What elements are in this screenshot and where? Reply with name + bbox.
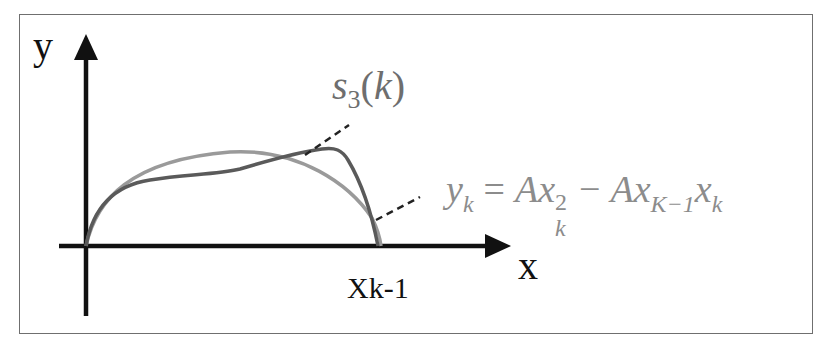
eq-term2-sub2: k	[712, 191, 723, 217]
y-axis-label: y	[33, 26, 53, 66]
parabola-equation-label: yk=Ax2k−AxK−1xk	[446, 170, 722, 208]
x-tick-label: Xk-1	[347, 273, 409, 303]
eq-lhs: y	[446, 168, 463, 210]
eq-term1-sub: k	[555, 216, 566, 240]
x-axis	[59, 234, 511, 258]
s3-symbol: s	[332, 63, 348, 108]
eq-lhs-sub: k	[463, 191, 474, 217]
eq-minus: −	[569, 168, 610, 210]
s3-subscript: 3	[348, 85, 361, 114]
s3-argument: k	[374, 63, 392, 108]
eq-term2-var1: x	[634, 168, 651, 210]
s3-curve-label: s3(k)	[332, 66, 405, 106]
eq-term2-var2: x	[695, 168, 712, 210]
eq-term2-sub1: K−1	[651, 191, 695, 217]
s3-close-paren: )	[392, 63, 405, 108]
x-axis-label: x	[518, 246, 538, 286]
eq-term1-sup: 2	[555, 190, 567, 214]
eq-equals: =	[474, 168, 515, 210]
eq-term2-coef: A	[611, 168, 634, 210]
s3-curve	[86, 148, 378, 246]
s3-open-paren: (	[361, 63, 374, 108]
diagram-canvas: y x Xk-1 s3(k) yk=Ax2k−AxK−1xk	[0, 0, 827, 343]
y-axis	[74, 34, 98, 316]
eq-term1-coef: A	[515, 168, 538, 210]
eq-term1-var: x	[538, 168, 555, 210]
x-axis-arrowhead-icon	[485, 234, 511, 258]
parabola-leader-line	[376, 197, 420, 220]
y-axis-arrowhead-icon	[74, 34, 98, 60]
parabola-curve	[86, 152, 381, 246]
